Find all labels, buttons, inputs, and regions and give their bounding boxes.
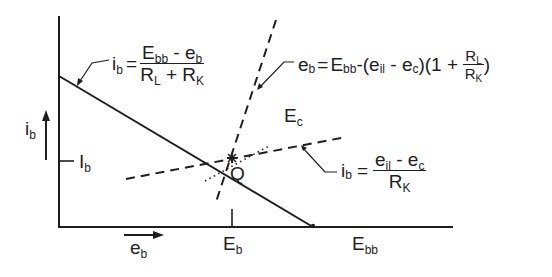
load-line-leader <box>78 60 109 84</box>
ebb-tick-label: Ebb <box>352 234 378 253</box>
num-b-sub: b <box>196 52 203 66</box>
shallow-num-b: e <box>408 149 419 170</box>
num-b: e <box>185 42 196 63</box>
eq-numerator: Ebb - eb <box>140 43 204 64</box>
ib-arrow-icon <box>42 110 50 160</box>
steep-dashed-line <box>216 20 276 202</box>
ec-label-main: E <box>284 105 297 126</box>
y-axis-label: ib <box>25 119 36 138</box>
steep-frac-num: RL <box>463 48 483 65</box>
steep-frac-num-main: R <box>465 47 476 64</box>
shallow-den-sub: K <box>403 181 411 195</box>
q-point-label: Q <box>230 164 245 183</box>
num-a: E <box>142 42 155 63</box>
x-axis-label: eb <box>130 238 147 257</box>
shallow-num-a: e <box>375 149 386 170</box>
steep-frac-den: RK <box>465 65 483 81</box>
steep-line-equation: eb = Ebb -(eil - ec )(1 + RL RK ) <box>298 48 490 81</box>
shallow-line-equation: ib = eil - ec RK <box>341 150 426 191</box>
shallow-lhs-sub: b <box>345 169 352 181</box>
eq-denominator: RL + RK <box>140 64 204 84</box>
shallow-frac-num: eil - ec <box>373 150 426 171</box>
steep-frac-den-sub: K <box>476 73 483 84</box>
den-b-sub: K <box>196 74 204 88</box>
num-minus: - <box>168 42 185 63</box>
shallow-den: R <box>389 171 403 192</box>
shallow-num-a-sub: il <box>386 159 391 173</box>
steep-frac-num-sub: L <box>476 55 482 66</box>
steep-t2: -(e <box>356 55 379 74</box>
diagram-canvas <box>0 0 552 277</box>
steep-lhs-sub: b <box>309 63 316 75</box>
shallow-frac-den: RK <box>389 171 411 191</box>
steep-t1: E <box>330 55 343 74</box>
shallow-num-minus: - <box>391 149 408 170</box>
steep-equals: = <box>317 55 328 74</box>
den-plus: + <box>161 64 183 85</box>
steep-frac-den-main: R <box>465 65 476 82</box>
steep-t3-sub: c <box>412 63 418 75</box>
steep-fraction: RL RK <box>463 48 483 81</box>
steep-line-leader <box>259 62 294 88</box>
shallow-equals: = <box>357 161 368 180</box>
eb-tick-label: Eb <box>223 234 242 253</box>
eq-fraction: Ebb - eb RL + RK <box>140 43 204 84</box>
eq-equals: = <box>126 54 137 73</box>
steep-t5: ) <box>484 55 490 74</box>
ebb-point <box>311 224 315 228</box>
ec-label-sub: c <box>297 115 303 129</box>
load-line-leader-arrowhead <box>77 78 83 86</box>
shallow-line-leader <box>302 147 337 172</box>
load-line-equation: ib = Ebb - eb RL + RK <box>112 43 204 84</box>
shallow-fraction: eil - ec RK <box>373 150 426 191</box>
eq-lhs-sub: b <box>116 63 123 77</box>
steep-t4: )(1 + <box>418 55 463 74</box>
den-a-sub: L <box>154 74 161 88</box>
q-point-marker <box>227 153 237 163</box>
steep-t1-sub: bb <box>343 63 356 75</box>
shallow-num-b-sub: c <box>418 159 424 173</box>
load-line-diagram: ib eb Ib Eb Ebb Q Ec ib = Ebb - eb RL + … <box>0 0 552 277</box>
den-b: R <box>182 64 196 85</box>
ec-label: Ec <box>284 106 303 125</box>
ib-tick-label: Ib <box>79 152 91 171</box>
eq-lhs: ib <box>112 54 123 73</box>
steep-t2-sub: il <box>380 63 385 75</box>
den-a: R <box>140 64 154 85</box>
num-a-sub: bb <box>155 52 168 66</box>
steep-lhs: e <box>298 55 309 74</box>
steep-t3: - e <box>385 55 412 74</box>
